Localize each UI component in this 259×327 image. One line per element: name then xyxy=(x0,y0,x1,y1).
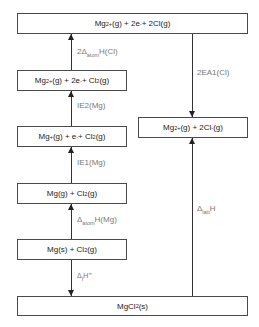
level-mg-gas: Mg(g) + Cl2(g) xyxy=(17,183,127,204)
level-mgplus: Mg+(g) + e- + Cl2(g) xyxy=(17,126,127,147)
arrow-down-icon xyxy=(68,290,74,296)
label-ie1: IE1(Mg) xyxy=(77,158,105,167)
arrow-up-icon xyxy=(68,34,74,40)
label-ie2: IE2(Mg) xyxy=(77,101,105,110)
connector-ea xyxy=(192,34,193,117)
text: (g) xyxy=(87,245,97,254)
text: + Cl xyxy=(78,132,92,141)
level-ions: Mg2+(g) + 2Cl-(g) xyxy=(138,117,248,138)
label-electron-affinity: 2EA1(Cl) xyxy=(197,68,229,77)
label-atomisation-cl: 2ΔatomH(Cl) xyxy=(77,47,118,58)
arrow-down-icon xyxy=(189,111,195,117)
text: Mg(g) + Cl xyxy=(47,189,85,198)
text: (g) + 2e xyxy=(52,76,80,85)
text: (s) xyxy=(139,302,148,311)
text: + Cl xyxy=(82,76,96,85)
text: (g) xyxy=(213,123,223,132)
text: + 2Cl(g) xyxy=(142,19,171,28)
text: (g) xyxy=(99,76,109,85)
level-mgcl2: MgCl2(s) xyxy=(17,296,248,316)
arrow-up-icon xyxy=(68,147,74,153)
connector-lattice xyxy=(192,138,193,296)
arrow-up-icon xyxy=(68,91,74,97)
text: H(Cl) xyxy=(99,47,118,56)
label-atomisation-mg: ΔatomH(Mg) xyxy=(77,215,117,226)
arrow-up-icon xyxy=(189,138,195,144)
text: Mg xyxy=(95,19,106,28)
text: (g) + 2e xyxy=(112,19,140,28)
label-formation: ΔfH⦵ xyxy=(77,270,93,282)
subscript: atom xyxy=(87,52,99,58)
superscript: ⦵ xyxy=(88,270,93,276)
subscript: atom xyxy=(82,220,94,226)
text: Mg xyxy=(39,132,50,141)
text: (g) xyxy=(87,189,97,198)
text: (g) + e xyxy=(53,132,76,141)
text: Mg(s) + Cl xyxy=(47,245,84,254)
text: (g) + 2Cl xyxy=(180,123,211,132)
level-top: Mg2+(g) + 2e- + 2Cl(g) xyxy=(17,13,248,34)
subscript: latt xyxy=(202,209,209,215)
level-mg2plus-cl2: Mg2+(g) + 2e- + Cl2(g) xyxy=(17,70,127,91)
label-lattice-enthalpy: ΔlattH xyxy=(197,204,215,215)
text: H(Mg) xyxy=(95,215,117,224)
level-mg-solid: Mg(s) + Cl2(g) xyxy=(17,239,127,260)
text: 2Δ xyxy=(77,47,87,56)
arrow-up-icon xyxy=(68,204,74,210)
text: H xyxy=(210,204,216,213)
text: (g) xyxy=(96,132,106,141)
text: Mg xyxy=(163,123,174,132)
text: MgCl xyxy=(117,302,136,311)
text: Mg xyxy=(35,76,46,85)
